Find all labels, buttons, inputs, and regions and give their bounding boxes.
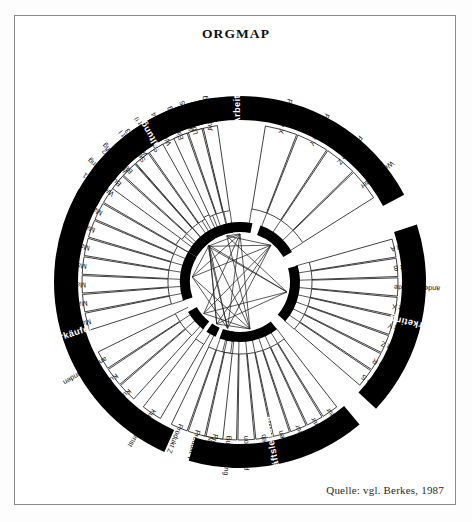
spoke-line bbox=[216, 337, 221, 350]
spoke-line bbox=[246, 340, 247, 354]
spoke-line bbox=[204, 332, 211, 344]
hub-chord bbox=[217, 245, 271, 324]
spoke-line bbox=[292, 308, 305, 314]
hub-segment-5 bbox=[219, 329, 234, 342]
spoke-line bbox=[282, 230, 293, 241]
spoke-line bbox=[296, 262, 309, 266]
spoke-line bbox=[288, 314, 300, 322]
orgmap-diagram: Werkstatt 1Werkstatt 2Werkstatt 3Werksta… bbox=[0, 0, 472, 522]
spoke-line bbox=[249, 209, 252, 225]
spoke-line bbox=[261, 213, 267, 228]
spoke-line bbox=[210, 217, 216, 230]
hub-chord bbox=[192, 245, 271, 277]
spoke-line bbox=[185, 320, 196, 329]
hub-chord bbox=[227, 236, 250, 329]
spoke-line bbox=[168, 286, 182, 287]
spoke-line bbox=[252, 339, 255, 353]
spoke-line bbox=[175, 307, 188, 313]
hub-segment-6 bbox=[206, 323, 219, 336]
spoke-line bbox=[182, 240, 193, 248]
spoke-line bbox=[295, 301, 308, 306]
spoke-line bbox=[272, 220, 281, 233]
spoke-line bbox=[298, 287, 312, 288]
spoke-line bbox=[178, 246, 190, 253]
spoke-line bbox=[169, 270, 183, 272]
source-caption: Quelle: vgl. Berkes, 1987 bbox=[326, 484, 444, 496]
spoke-line bbox=[169, 293, 183, 296]
spoke-line bbox=[258, 337, 262, 350]
hub-chord bbox=[240, 234, 250, 329]
spoke-line bbox=[168, 279, 182, 280]
spoke-line bbox=[198, 223, 206, 234]
spoke-line bbox=[192, 228, 201, 238]
spoke-line bbox=[205, 219, 212, 231]
spoke-line bbox=[265, 335, 271, 348]
spoke-line bbox=[297, 271, 311, 273]
spoke-line bbox=[231, 340, 233, 354]
spoke-line bbox=[232, 340, 233, 354]
hub-segment-7 bbox=[188, 307, 209, 329]
spoke-line bbox=[284, 320, 295, 329]
hub-chord bbox=[217, 292, 287, 324]
spoke-line bbox=[172, 300, 185, 304]
spoke-line bbox=[180, 314, 192, 322]
spoke-line bbox=[171, 262, 184, 266]
band-label: Arbeiter bbox=[232, 86, 242, 124]
spoke-line bbox=[230, 211, 232, 225]
spoke-line bbox=[174, 254, 187, 260]
spoke-line bbox=[289, 243, 303, 251]
spoke-line bbox=[276, 328, 285, 339]
spoke-line bbox=[208, 334, 214, 347]
orgmap-figure: ORGMAP Werkstatt 1Werkstatt 2Werkstatt 3… bbox=[0, 0, 472, 522]
spoke-line bbox=[187, 234, 197, 243]
spoke-line bbox=[270, 331, 277, 343]
hub-chord bbox=[208, 245, 271, 246]
spoke-line bbox=[297, 295, 311, 298]
